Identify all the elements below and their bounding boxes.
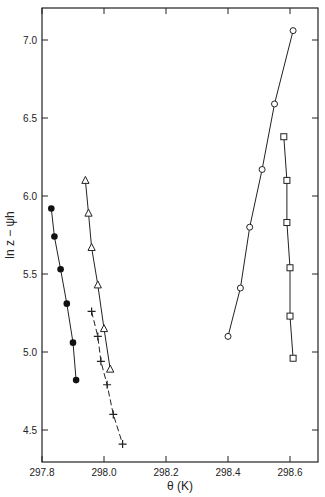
plus-marker — [109, 410, 117, 418]
plus-marker — [119, 440, 127, 448]
open-triangle-marker — [107, 365, 114, 372]
y-axis-label: ln z − ψh — [3, 211, 17, 259]
open-circle-marker — [237, 285, 243, 291]
plus-marker — [97, 357, 105, 365]
y-tick-label: 4.5 — [23, 425, 37, 436]
series-crosses — [88, 307, 127, 448]
open-triangle-marker — [100, 325, 107, 332]
x-axis-label: θ (K) — [167, 479, 193, 493]
open-circle-marker — [247, 224, 253, 230]
open-square-marker — [287, 265, 293, 271]
open-circle-marker — [225, 333, 231, 339]
open-square-marker — [287, 313, 293, 319]
y-tick-label: 5.0 — [23, 347, 37, 358]
y-tick-label: 6.0 — [23, 191, 37, 202]
filled-circle-marker — [51, 233, 58, 240]
series-squares — [281, 134, 296, 362]
open-triangle-marker — [88, 243, 95, 250]
open-square-marker — [290, 355, 296, 361]
x-tick-label: 298.6 — [277, 467, 302, 478]
open-circle-marker — [290, 28, 296, 34]
filled-circle-marker — [57, 266, 64, 273]
open-square-marker — [284, 220, 290, 226]
x-tick-label: 298.2 — [153, 467, 178, 478]
chart: 297.8298.0298.2298.4298.64.55.05.56.06.5… — [0, 0, 325, 497]
plot-frame — [42, 8, 318, 462]
plus-marker — [88, 307, 96, 315]
filled-circle-marker — [70, 339, 77, 346]
y-tick-label: 6.5 — [23, 113, 37, 124]
series-filled-circles — [48, 205, 79, 383]
filled-circle-marker — [73, 377, 80, 384]
open-triangle-marker — [94, 281, 101, 288]
y-tick-label: 7.0 — [23, 35, 37, 46]
x-tick-label: 297.8 — [29, 467, 54, 478]
open-circle-marker — [259, 166, 265, 172]
open-triangle-marker — [82, 176, 89, 183]
data-series — [48, 28, 296, 448]
filled-circle-marker — [48, 205, 55, 212]
plus-marker — [94, 332, 102, 340]
open-circle-marker — [272, 101, 278, 107]
open-triangle-marker — [85, 209, 92, 216]
y-tick-label: 5.5 — [23, 269, 37, 280]
axis-ticks: 297.8298.0298.2298.4298.64.55.05.56.06.5… — [23, 8, 318, 478]
series-triangles — [82, 176, 114, 372]
plus-marker — [103, 381, 111, 389]
open-square-marker — [281, 134, 287, 140]
filled-circle-marker — [64, 300, 71, 307]
x-tick-label: 298.4 — [215, 467, 240, 478]
open-square-marker — [284, 177, 290, 183]
x-tick-label: 298.0 — [91, 467, 116, 478]
